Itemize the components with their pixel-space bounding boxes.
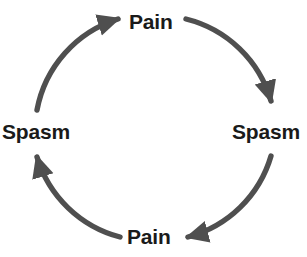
pain-spasm-cycle-diagram: Pain Spasm Pain Spasm bbox=[0, 0, 307, 257]
cycle-node-spasm-left: Spasm bbox=[2, 121, 70, 142]
arrow-right-to-bottom bbox=[188, 156, 271, 237]
cycle-node-pain-top: Pain bbox=[129, 11, 173, 32]
arrow-top-to-right bbox=[186, 19, 271, 101]
arrow-left-to-top bbox=[37, 19, 118, 110]
cycle-node-spasm-right: Spasm bbox=[232, 121, 300, 142]
arrow-bottom-to-left bbox=[37, 157, 120, 237]
cycle-node-pain-bottom: Pain bbox=[127, 226, 171, 247]
